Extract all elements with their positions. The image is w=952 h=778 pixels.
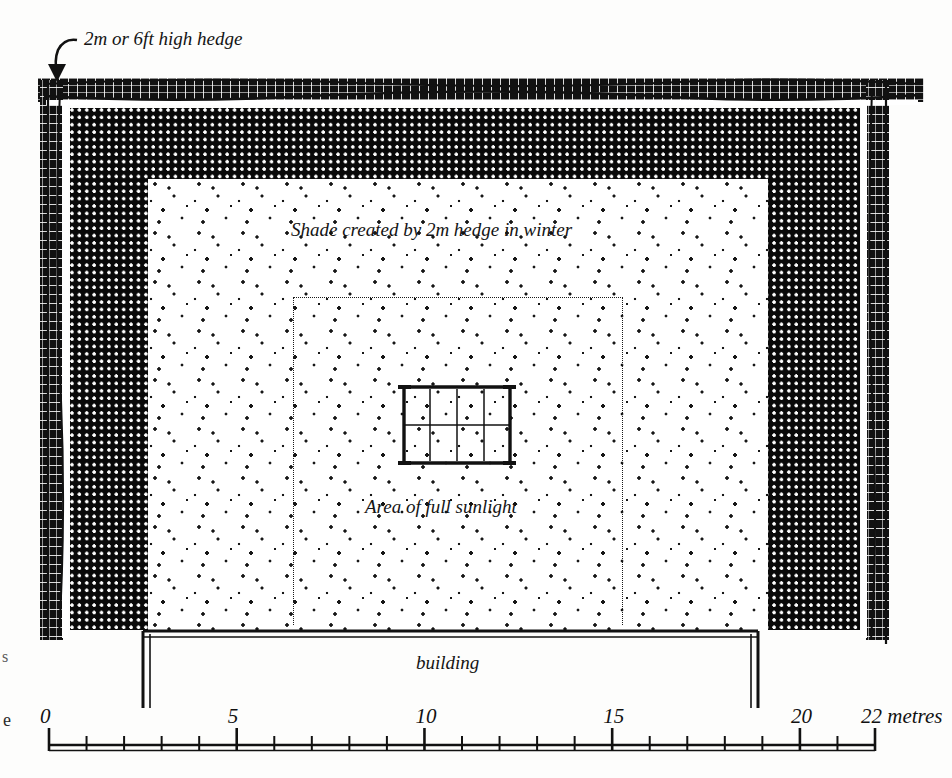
sunlight-region-label: Area of full sunlight (365, 496, 517, 518)
sunlight-boundary-left (293, 297, 294, 625)
scale-tick-label: 22 metres (861, 704, 942, 729)
scale-bar: 0510152022 metres (0, 690, 952, 770)
hedge-inner-gutter-left (62, 100, 68, 638)
sunlight-boundary-right (622, 297, 623, 625)
garden-plot-grid-icon (392, 378, 532, 488)
sunlight-boundary-top (293, 297, 623, 298)
hedge-inner-gutter-top (46, 100, 918, 105)
hedge-label: 2m or 6ft high hedge (84, 28, 242, 50)
hedge-right-band (866, 80, 889, 640)
scale-tick-label: 20 (791, 704, 812, 729)
hedge-inner-gutter-right (861, 100, 867, 638)
hedge-top-band (38, 78, 924, 102)
page-edge-fragment-upper: s (2, 648, 8, 666)
scale-tick-label: 5 (228, 704, 239, 729)
scale-tick-label: 15 (603, 704, 624, 729)
scale-tick-label: 0 (40, 704, 51, 729)
scale-bar-graphic (0, 690, 952, 770)
figure-canvas: 2m or 6ft high hedge Shade created by 2m… (0, 0, 952, 778)
shade-region-label: Shade created by 2m hedge in winter (291, 219, 572, 241)
building-label: building (416, 652, 479, 674)
hedge-left-band (40, 80, 63, 640)
scale-tick-label: 10 (415, 704, 436, 729)
